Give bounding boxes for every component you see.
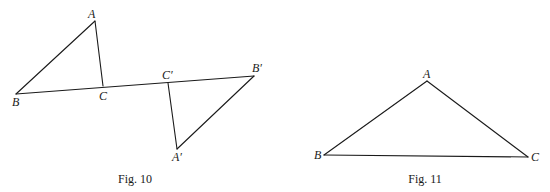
point-label-A: A	[87, 7, 96, 21]
figure-caption: Fig. 10	[118, 172, 152, 186]
point-label-B: B	[12, 95, 20, 109]
point-label-C: C	[99, 89, 108, 103]
point-label-B: B	[314, 148, 322, 162]
figure-caption: Fig. 11	[408, 172, 442, 186]
segment-AC	[95, 21, 103, 86]
segment-AB	[324, 81, 427, 155]
point-label-A: A	[422, 67, 431, 81]
segment-BBprime	[16, 76, 254, 94]
segment-BC	[324, 155, 528, 157]
figure-11: A B C Fig. 11	[314, 67, 540, 186]
point-label-A-prime: A′	[171, 150, 182, 164]
diagram-canvas: A B C C′ B′ A′ Fig. 10 A B C Fig. 11	[0, 0, 550, 192]
point-label-C: C	[531, 150, 540, 164]
segment-AC	[427, 81, 528, 157]
point-label-B-prime: B′	[252, 61, 262, 75]
segment-CprimeAprime	[168, 83, 177, 149]
segment-AprimeBprime	[177, 76, 254, 149]
point-label-C-prime: C′	[162, 68, 173, 82]
figure-10: A B C C′ B′ A′ Fig. 10	[12, 7, 262, 186]
segment-AB	[16, 21, 95, 94]
